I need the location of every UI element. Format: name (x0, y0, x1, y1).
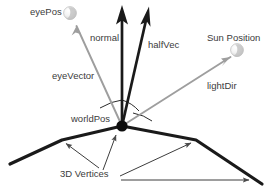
half-vec-line (122, 18, 147, 126)
lighting-vector-diagram: eyePos normal halfVec Sun Position eyeVe… (0, 0, 271, 190)
label-sun-position: Sun Position (207, 32, 260, 43)
label-eye-pos: eyePos (30, 6, 62, 17)
world-pos-point-icon (116, 120, 127, 131)
light-dir-line (122, 57, 231, 126)
vertex-leader-right (120, 143, 191, 176)
terrain-polyline (10, 126, 262, 184)
label-normal: normal (90, 32, 119, 43)
label-eye-vector: eyeVector (52, 70, 94, 81)
label-half-vec: halfVec (148, 39, 179, 50)
vertex-leader-center (103, 135, 116, 170)
label-world-pos: worldPos (71, 113, 110, 124)
diagram-canvas (0, 0, 271, 190)
label-3d-vertices: 3D Vertices (60, 168, 109, 179)
vertex-leader-left (66, 144, 99, 169)
label-light-dir: lightDir (207, 80, 237, 91)
